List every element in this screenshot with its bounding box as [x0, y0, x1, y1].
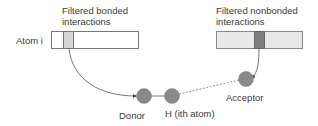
bonded-interactions-bar — [52, 32, 139, 49]
diagram-canvas — [0, 0, 318, 126]
donor-atom — [137, 89, 152, 104]
hydrogen-label: H (ith atom) — [165, 108, 215, 119]
acceptor-atom — [239, 72, 254, 87]
nonbonded-to-acceptor-arrow — [252, 48, 259, 78]
nonbonded-interactions-bar — [217, 32, 303, 49]
hydrogen-atom — [165, 89, 180, 104]
acceptor-label: Acceptor — [226, 92, 264, 103]
bonded-to-donor-arrow — [69, 48, 136, 96]
nonbonded-segment — [255, 32, 265, 49]
donor-label: Donor — [119, 110, 145, 121]
bonded-segment — [64, 32, 74, 49]
